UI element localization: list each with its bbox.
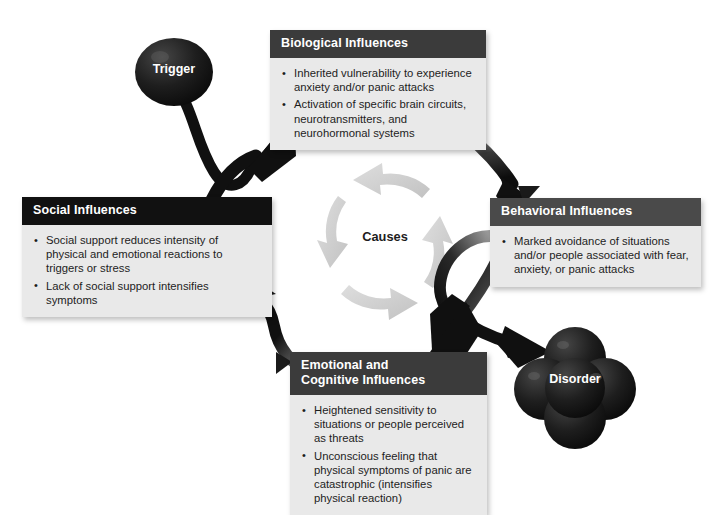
box-biological-influences: Biological Influences Inherited vulnerab… xyxy=(270,30,486,150)
list-item: Unconscious feeling that physical sympto… xyxy=(302,449,475,506)
list-item: Activation of specific brain circuits, n… xyxy=(282,97,474,140)
box-emotional-title-line1: Emotional and xyxy=(301,358,476,373)
box-social-influences: Social Influences Social support reduces… xyxy=(22,197,272,317)
box-social-body: Social support reduces intensity of phys… xyxy=(22,225,272,317)
box-emotional-title-line2: Cognitive Influences xyxy=(301,373,476,388)
list-item: Heightened sensitivity to situations or … xyxy=(302,403,475,446)
box-social-title: Social Influences xyxy=(22,197,272,225)
box-behavioral-body: Marked avoidance of situations and/or pe… xyxy=(490,226,701,287)
box-biological-body: Inherited vulnerability to experience an… xyxy=(270,58,486,150)
node-trigger xyxy=(135,38,213,106)
list-item: Inherited vulnerability to experience an… xyxy=(282,66,474,94)
box-behavioral-influences: Behavioral Influences Marked avoidance o… xyxy=(490,198,701,287)
box-biological-title: Biological Influences xyxy=(270,30,486,58)
box-emotional-body: Heightened sensitivity to situations or … xyxy=(290,395,487,515)
box-emotional-title: Emotional and Cognitive Influences xyxy=(290,352,487,395)
box-emotional-cognitive-influences: Emotional and Cognitive Influences Heigh… xyxy=(290,352,487,515)
list-item: Lack of social support intensifies sympt… xyxy=(34,279,260,307)
box-behavioral-title: Behavioral Influences xyxy=(490,198,701,226)
causes-center-label: Causes xyxy=(335,229,435,244)
list-item: Marked avoidance of situations and/or pe… xyxy=(502,234,689,277)
list-item: Social support reduces intensity of phys… xyxy=(34,233,260,276)
